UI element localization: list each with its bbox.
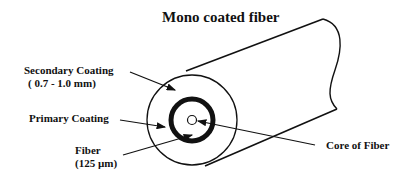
cylinder-end-curve [323, 19, 340, 109]
cylinder-top-edge [186, 19, 323, 71]
secondary-arrow [130, 72, 175, 90]
label-fiber: Fiber (125 µm) [75, 144, 117, 170]
label-primary-coating: Primary Coating [29, 112, 109, 125]
fiber-text: Fiber [75, 144, 117, 157]
secondary-coating-text: Secondary Coating [24, 64, 114, 77]
label-secondary-coating: Secondary Coating ( 0.7 - 1.0 mm) [24, 64, 114, 90]
label-core: Core of Fiber [326, 139, 389, 152]
secondary-coating-size: ( 0.7 - 1.0 mm) [24, 77, 114, 90]
fiber-diagram [0, 0, 411, 183]
core-circle [188, 116, 197, 125]
fiber-size: (125 µm) [75, 157, 117, 170]
